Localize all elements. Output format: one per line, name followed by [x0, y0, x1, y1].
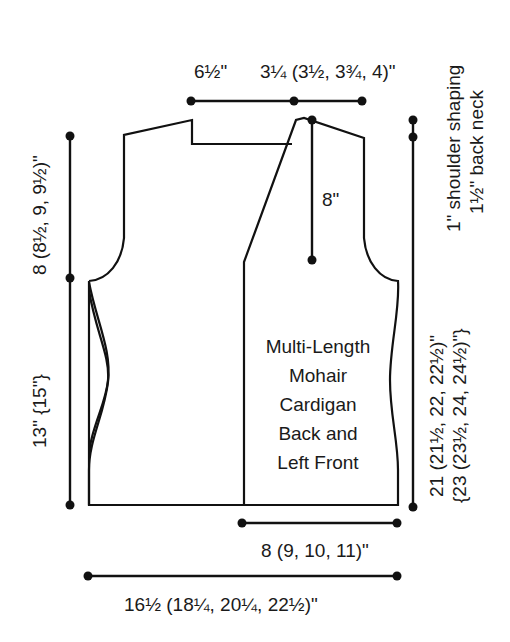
neck-depth-label: 8"	[322, 189, 339, 210]
title-line: Mohair	[289, 365, 348, 386]
dim-endpoint	[66, 501, 75, 510]
dim-endpoint	[238, 519, 247, 528]
shoulder-shaping-label: 1" shoulder shaping	[443, 65, 464, 232]
back-side-curve	[89, 282, 109, 505]
dim-endpoint	[409, 503, 418, 512]
dim-endpoint	[409, 133, 418, 142]
top-left-width-label: 6½"	[194, 61, 227, 82]
title-line: Multi-Length	[266, 336, 371, 357]
back-width-label: 16½ (18¼, 20¼, 22½)"	[124, 594, 318, 615]
title-line: Back and	[278, 423, 357, 444]
title-line: Left Front	[277, 452, 359, 473]
dim-endpoint	[409, 116, 418, 125]
dim-endpoint	[66, 274, 75, 283]
side-length-label: 13" {15"}	[29, 374, 50, 448]
total-length-label: 21 (21½, 22, 22½)"	[426, 335, 447, 497]
dim-endpoint	[187, 97, 196, 106]
piece-title: Multi-Length Mohair Cardigan Back and Le…	[266, 336, 371, 473]
dim-endpoint	[84, 572, 93, 581]
title-line: Cardigan	[279, 394, 356, 415]
armhole-depth-label: 8 (8½, 9, 9½)"	[29, 155, 50, 275]
total-length-alt-label: {23 (23½, 24, 24½)"}	[449, 328, 470, 503]
front-width-label: 8 (9, 10, 11)"	[261, 540, 369, 561]
back-outline	[89, 120, 292, 505]
schematic-diagram: 6½" 3¼ (3½, 3¾, 4)" 8" 8 (8½, 9, 9½)" 13…	[0, 0, 510, 642]
dim-endpoint	[66, 132, 75, 141]
dim-endpoint	[308, 256, 317, 265]
front-outline	[244, 118, 398, 505]
top-right-width-label: 3¼ (3½, 3¾, 4)"	[260, 61, 396, 82]
back-neck-label: 1½" back neck	[466, 90, 487, 214]
dim-endpoint	[290, 97, 299, 106]
dim-endpoint	[308, 116, 317, 125]
dim-endpoint	[393, 572, 402, 581]
dim-endpoint	[358, 97, 367, 106]
dim-endpoint	[393, 519, 402, 528]
